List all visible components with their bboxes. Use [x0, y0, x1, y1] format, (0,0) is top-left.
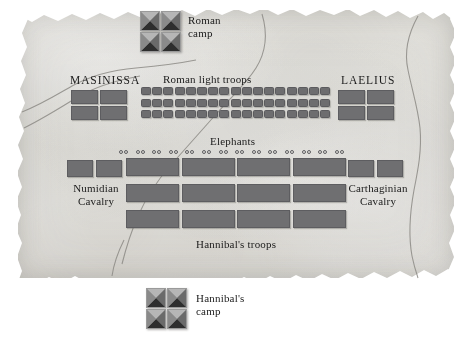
light-troop-unit: [264, 87, 274, 95]
carthaginian-cavalry-label: Carthaginian Cavalry: [340, 182, 416, 208]
light-troop-unit: [175, 110, 185, 118]
elephant-marker: [335, 150, 346, 155]
hannibals-camp-label: Hannibal's camp: [196, 292, 245, 318]
hannibal-troop-block: [126, 158, 179, 176]
unit-block: [377, 160, 403, 177]
masinissa-label: MASINISSA: [70, 74, 140, 88]
unit-block: [338, 106, 365, 120]
unit-block: [348, 160, 374, 177]
elephant-marker: [285, 150, 296, 155]
light-troop-unit: [275, 87, 285, 95]
hannibals-troops-label: Hannibal's troops: [196, 238, 276, 251]
light-troop-unit: [253, 99, 263, 107]
light-troop-unit: [298, 110, 308, 118]
hannibal-troop-block: [126, 210, 179, 228]
light-troop-unit: [197, 87, 207, 95]
light-troop-unit: [208, 99, 218, 107]
unit-block: [96, 160, 122, 177]
hannibal-troop-block: [237, 158, 290, 176]
hannibal-troop-block: [237, 210, 290, 228]
light-troop-unit: [242, 99, 252, 107]
hannibal-troop-block: [293, 210, 346, 228]
light-troop-unit: [231, 87, 241, 95]
hannibal-troop-block: [293, 158, 346, 176]
light-troop-unit: [242, 87, 252, 95]
light-troop-unit: [175, 99, 185, 107]
tent-icon: [167, 309, 187, 329]
elephant-marker: [119, 150, 130, 155]
hannibal-troop-block: [293, 184, 346, 202]
unit-block: [338, 90, 365, 104]
elephant-marker: [219, 150, 230, 155]
roman-camp-label: Roman camp: [188, 14, 221, 40]
elephant-marker: [235, 150, 246, 155]
elephant-marker: [318, 150, 329, 155]
light-troop-unit: [298, 99, 308, 107]
light-troop-unit: [208, 110, 218, 118]
laelius-label: LAELIUS: [341, 74, 395, 88]
light-troop-unit: [197, 110, 207, 118]
light-troop-unit: [231, 110, 241, 118]
light-troop-unit: [186, 110, 196, 118]
light-troop-unit: [219, 99, 229, 107]
tent-icon: [146, 309, 166, 329]
light-troop-unit: [264, 99, 274, 107]
light-troop-unit: [287, 110, 297, 118]
unit-block: [100, 90, 127, 104]
light-troop-unit: [231, 99, 241, 107]
light-troop-unit: [309, 99, 319, 107]
tent-icon: [161, 32, 181, 52]
battle-map: Roman camp MASINISSA LAELIUS Roman light…: [0, 0, 471, 355]
tent-icon: [146, 288, 166, 308]
elephants-label: Elephants: [210, 135, 255, 148]
tent-icon: [140, 32, 160, 52]
light-troop-unit: [264, 110, 274, 118]
light-troop-unit: [163, 99, 173, 107]
light-troop-unit: [219, 87, 229, 95]
light-troop-unit: [309, 110, 319, 118]
elephant-marker: [202, 150, 213, 155]
light-troop-unit: [219, 110, 229, 118]
light-troop-unit: [287, 87, 297, 95]
elephant-marker: [185, 150, 196, 155]
light-troop-unit: [152, 87, 162, 95]
light-troop-unit: [309, 87, 319, 95]
light-troop-unit: [175, 87, 185, 95]
elephant-marker: [152, 150, 163, 155]
elephant-marker: [252, 150, 263, 155]
light-troop-unit: [141, 110, 151, 118]
tent-icon: [167, 288, 187, 308]
hannibal-troop-block: [182, 210, 235, 228]
unit-block: [71, 90, 98, 104]
light-troop-unit: [275, 110, 285, 118]
light-troop-unit: [163, 110, 173, 118]
light-troop-unit: [320, 110, 330, 118]
light-troop-unit: [320, 87, 330, 95]
light-troop-unit: [163, 87, 173, 95]
elephant-marker: [268, 150, 279, 155]
light-troop-unit: [253, 87, 263, 95]
roman-light-troops-label: Roman light troops: [163, 73, 252, 86]
unit-block: [67, 160, 93, 177]
light-troop-unit: [186, 87, 196, 95]
numidian-cavalry-label: Numidian Cavalry: [60, 182, 132, 208]
light-troop-unit: [152, 110, 162, 118]
elephant-marker: [136, 150, 147, 155]
hannibal-troop-block: [237, 184, 290, 202]
unit-block: [367, 90, 394, 104]
tent-icon: [161, 11, 181, 31]
light-troop-unit: [152, 99, 162, 107]
light-troop-unit: [253, 110, 263, 118]
light-troop-unit: [186, 99, 196, 107]
hannibal-troop-block: [182, 184, 235, 202]
light-troop-unit: [242, 110, 252, 118]
elephant-marker: [302, 150, 313, 155]
light-troop-unit: [287, 99, 297, 107]
light-troop-unit: [208, 87, 218, 95]
light-troop-unit: [141, 99, 151, 107]
tent-icon: [140, 11, 160, 31]
unit-block: [100, 106, 127, 120]
hannibal-troop-block: [126, 184, 179, 202]
hannibal-troop-block: [182, 158, 235, 176]
light-troop-unit: [197, 99, 207, 107]
